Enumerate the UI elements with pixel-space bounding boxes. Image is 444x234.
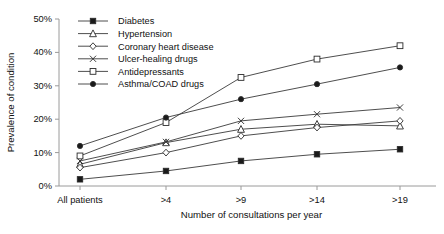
- legend-item-diabetes[interactable]: Diabetes: [78, 16, 155, 26]
- legend-item-coronary-heart-disease[interactable]: Coronary heart disease: [78, 42, 214, 52]
- data-point: [163, 149, 169, 156]
- prevalence-line-chart: 0%10%20%30%40%50% All patients>4>9>14>19…: [0, 0, 444, 234]
- x-tick-label: >19: [392, 195, 408, 205]
- y-tick-label: 50%: [33, 14, 52, 24]
- x-axis-tick-labels: All patients>4>9>14>19: [57, 195, 408, 205]
- data-point: [163, 115, 168, 120]
- legend-marker: [90, 81, 95, 86]
- data-point: [238, 75, 244, 81]
- x-axis-title: Number of consultations per year: [181, 209, 323, 220]
- chart-container: 0%10%20%30%40%50% All patients>4>9>14>19…: [0, 0, 444, 234]
- data-point: [397, 65, 402, 70]
- data-point: [77, 153, 83, 159]
- data-point: [77, 143, 82, 148]
- data-point: [77, 177, 82, 182]
- data-point: [238, 97, 243, 102]
- legend-label: Hypertension: [118, 29, 172, 39]
- data-point: [397, 43, 403, 49]
- y-tick-label: 20%: [33, 114, 52, 124]
- x-tick-label: >9: [236, 195, 247, 205]
- legend-marker: [90, 18, 95, 23]
- data-point: [397, 117, 403, 124]
- legend-label: Ulcer-healing drugs: [118, 54, 198, 64]
- data-point: [238, 133, 244, 140]
- data-point: [314, 56, 320, 62]
- x-tick-label: >14: [309, 195, 325, 205]
- legend-item-ulcer-healing-drugs[interactable]: Ulcer-healing drugs: [78, 54, 198, 64]
- y-tick-label: 30%: [33, 81, 52, 91]
- legend-label: Asthma/COAD drugs: [118, 79, 204, 89]
- data-point: [163, 168, 168, 173]
- legend-label: Coronary heart disease: [118, 42, 214, 52]
- chart-legend: DiabetesHypertensionCoronary heart disea…: [78, 16, 214, 89]
- data-point: [314, 82, 319, 87]
- x-tick-label: All patients: [57, 195, 103, 205]
- legend-item-asthma-coad-drugs[interactable]: Asthma/COAD drugs: [78, 79, 204, 89]
- legend-label: Antidepressants: [118, 67, 184, 77]
- legend-marker: [90, 69, 96, 75]
- y-tick-label: 40%: [33, 47, 52, 57]
- y-axis-tick-labels: 0%10%20%30%40%50%: [33, 14, 52, 191]
- data-point: [238, 158, 243, 163]
- x-tick-label: >4: [161, 195, 172, 205]
- y-tick-label: 10%: [33, 148, 52, 158]
- legend-item-antidepressants[interactable]: Antidepressants: [78, 67, 184, 77]
- series-diabetes: [77, 147, 402, 182]
- data-point: [397, 147, 402, 152]
- data-point: [314, 152, 319, 157]
- y-tick-label: 0%: [39, 181, 52, 191]
- y-axis-title: Prevalence of condition: [5, 53, 16, 153]
- legend-marker: [90, 43, 96, 50]
- axes: [55, 19, 436, 190]
- legend-label: Diabetes: [118, 16, 155, 26]
- legend-item-hypertension[interactable]: Hypertension: [78, 29, 172, 39]
